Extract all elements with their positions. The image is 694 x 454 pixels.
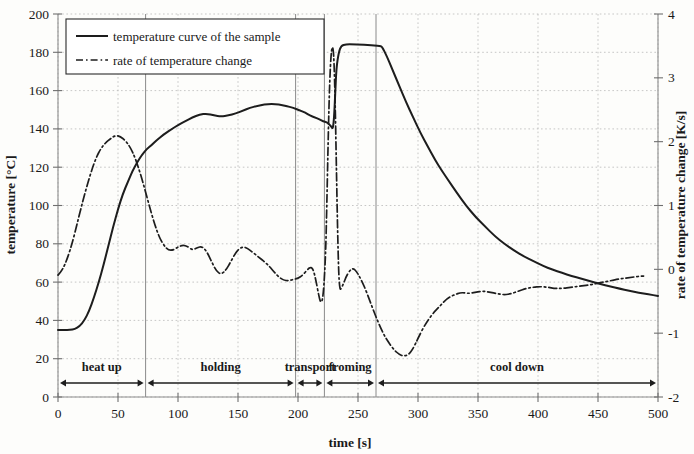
y-tick-label: 80 <box>36 236 50 251</box>
phase-arrow-head-left <box>148 379 154 386</box>
phase-label: heat up <box>82 360 122 374</box>
x-tick-label: 350 <box>468 406 489 421</box>
phase-arrow-head-left <box>60 379 66 386</box>
x-tick-label: 300 <box>408 406 429 421</box>
phase-arrow-head-right <box>650 379 656 386</box>
phase-arrow-head-left <box>298 379 304 386</box>
x-tick-label: 150 <box>228 406 249 421</box>
y2-tick-label: -1 <box>668 326 679 341</box>
temperature-process-chart: 020406080100120140160180200-2-1012340501… <box>0 0 694 454</box>
phase-arrow-head-right <box>288 379 294 386</box>
y-tick-label: 120 <box>29 160 50 175</box>
x-tick-label: 500 <box>648 406 669 421</box>
y2-tick-label: 3 <box>668 70 675 85</box>
phase-label: holding <box>200 360 241 374</box>
legend: temperature curve of the samplerate of t… <box>66 19 324 74</box>
y-tick-label: 40 <box>36 313 50 328</box>
x-tick-label: 250 <box>348 406 369 421</box>
y-tick-label: 140 <box>29 121 50 136</box>
phase-label: froming <box>329 360 373 374</box>
y2-axis-title: rate of temperature change [K/s] <box>673 111 688 300</box>
x-tick-label: 50 <box>111 406 125 421</box>
phase-arrow-head-right <box>368 379 374 386</box>
phase-label: cool down <box>490 360 544 374</box>
y-tick-label: 60 <box>36 275 50 290</box>
phase-arrow-head-left <box>378 379 384 386</box>
y-tick-label: 0 <box>42 390 49 405</box>
phase-arrow-head-right <box>316 379 322 386</box>
legend-label: temperature curve of the sample <box>113 29 281 44</box>
y-tick-label: 20 <box>36 351 50 366</box>
x-tick-label: 450 <box>588 406 609 421</box>
y-tick-label: 200 <box>29 7 50 22</box>
legend-label: rate of temperature change <box>113 53 252 68</box>
phase-arrow-head-right <box>138 379 144 386</box>
x-tick-label: 100 <box>168 406 189 421</box>
y-tick-label: 180 <box>29 45 50 60</box>
x-tick-label: 0 <box>55 406 62 421</box>
phase-annotations: heat upholdingtransportfromingcool down <box>60 360 656 387</box>
x-tick-label: 200 <box>288 406 309 421</box>
y-axis-title: temperature [°C] <box>3 155 18 254</box>
chart-container: 020406080100120140160180200-2-1012340501… <box>0 0 694 454</box>
x-axis-title: time [s] <box>328 435 371 450</box>
y-tick-label: 100 <box>29 198 50 213</box>
y2-tick-label: -2 <box>668 390 679 405</box>
phase-arrow-head-left <box>326 379 332 386</box>
y-tick-label: 160 <box>29 83 50 98</box>
y2-tick-label: 4 <box>668 7 675 22</box>
x-tick-label: 400 <box>528 406 549 421</box>
